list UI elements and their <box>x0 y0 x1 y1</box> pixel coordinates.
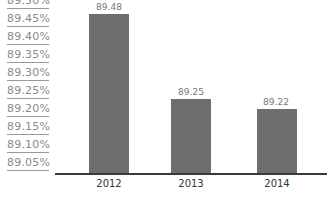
bar-value-label: 89.25 <box>166 87 216 97</box>
y-tick-label: 89.30% <box>7 67 49 81</box>
x-tick-label: 2013 <box>166 178 216 189</box>
bar-2013 <box>171 99 211 173</box>
y-tick-label: 89.05% <box>7 157 49 171</box>
y-tick-label: 89.25% <box>7 85 49 99</box>
y-tick-label: 89.15% <box>7 121 49 135</box>
y-tick-label: 89.10% <box>7 139 49 153</box>
bar-value-label: 89.22 <box>251 97 301 107</box>
x-tick-label: 2014 <box>252 178 302 189</box>
bar-2012 <box>89 14 129 173</box>
y-tick-label: 89.40% <box>7 31 49 45</box>
x-axis-line <box>55 173 327 175</box>
x-tick-label: 2012 <box>84 178 134 189</box>
y-tick-label: 89.45% <box>7 13 49 27</box>
y-tick-label: 89.20% <box>7 103 49 117</box>
bar-value-label: 89.48 <box>84 2 134 12</box>
y-tick-label: 89.35% <box>7 49 49 63</box>
bar-2014 <box>257 109 297 173</box>
y-tick-label: 89.50% <box>7 0 49 9</box>
